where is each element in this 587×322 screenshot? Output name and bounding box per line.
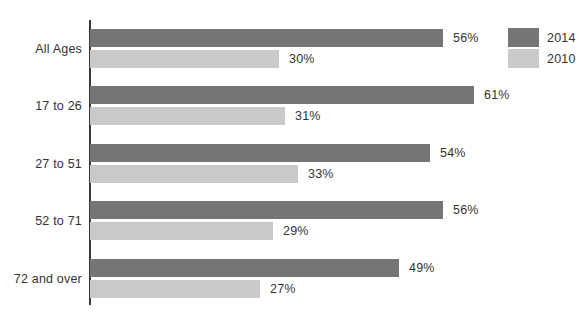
legend-label: 2010 (547, 52, 576, 66)
category-label: 52 to 71 (0, 201, 82, 240)
value-label: 49% (409, 259, 435, 277)
category-label: 17 to 26 (0, 86, 82, 125)
value-label: 56% (453, 29, 479, 47)
legend: 20142010 (508, 28, 576, 70)
value-label: 33% (308, 165, 334, 183)
bar-2014 (90, 29, 443, 47)
grouped-bar-chart: All Ages56%30%17 to 2661%31%27 to 5154%3… (0, 0, 587, 322)
value-label: 54% (440, 144, 466, 162)
value-label: 61% (484, 86, 510, 104)
legend-swatch-icon (508, 49, 539, 68)
bar-2014 (90, 144, 430, 162)
bar-2014 (90, 201, 443, 219)
value-label: 56% (453, 201, 479, 219)
value-label: 30% (289, 50, 315, 68)
legend-swatch-icon (508, 28, 539, 47)
bar-2010 (90, 280, 260, 298)
value-label: 29% (283, 222, 309, 240)
category-label: 27 to 51 (0, 144, 82, 183)
bar-2014 (90, 259, 399, 277)
bar-2010 (90, 222, 273, 240)
legend-item-2010: 2010 (508, 49, 576, 68)
category-label: 72 and over (0, 259, 82, 298)
value-label: 31% (295, 107, 321, 125)
value-label: 27% (270, 280, 296, 298)
bar-2010 (90, 165, 298, 183)
bar-2014 (90, 86, 474, 104)
bar-2010 (90, 50, 279, 68)
bar-2010 (90, 107, 285, 125)
legend-item-2014: 2014 (508, 28, 576, 47)
legend-label: 2014 (547, 31, 576, 45)
category-label: All Ages (0, 29, 82, 68)
